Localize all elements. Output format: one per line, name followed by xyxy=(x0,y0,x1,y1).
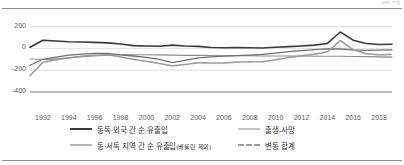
legend-label: 변동 합계 xyxy=(265,140,295,151)
x-tick-label: 2004 xyxy=(190,114,206,121)
plot-area: 2000-200-400 199219941996199820002002200… xyxy=(0,10,404,102)
legend-swatch-icon xyxy=(70,141,92,149)
legend-item-0[interactable]: 동독·외국 간 순 유출입 xyxy=(34,124,220,135)
chart-figure: (단위: 천 명) 2000-200-400 19921994199619982… xyxy=(0,0,404,165)
x-tick-label: 1996 xyxy=(87,114,103,121)
x-tick-label: 2012 xyxy=(294,114,310,121)
y-tick-label: -200 xyxy=(0,65,26,72)
legend-label: 출생-사망 xyxy=(265,124,295,135)
x-tick-label: 2014 xyxy=(320,114,336,121)
line-chart-svg xyxy=(0,10,404,102)
chart-legend: 동독·외국 간 순 유출입출생-사망동·서독 지역 간 순 유출입(베를린 제외… xyxy=(0,121,404,153)
legend-item-1[interactable]: 출생-사망 xyxy=(220,124,370,135)
y-tick-label: 200 xyxy=(0,22,26,29)
bottom-divider xyxy=(2,160,402,161)
legend-swatch-icon xyxy=(238,141,260,149)
x-tick-label: 2000 xyxy=(139,114,155,121)
x-tick-label: 2018 xyxy=(371,114,387,121)
top-divider xyxy=(2,8,402,9)
x-tick-label: 1992 xyxy=(35,114,51,121)
unit-note: (단위: 천 명) xyxy=(382,0,400,5)
legend-row: 동독·외국 간 순 유출입출생-사망 xyxy=(0,121,404,137)
legend-row: 동·서독 지역 간 순 유출입(베를린 제외)변동 합계 xyxy=(0,137,404,153)
legend-label: 동독·외국 간 순 유출입 xyxy=(97,124,167,135)
x-tick-label: 2008 xyxy=(242,114,258,121)
legend-swatch-icon xyxy=(70,125,92,133)
x-tick-label: 2016 xyxy=(345,114,361,121)
x-tick-label: 2010 xyxy=(268,114,284,121)
legend-label: 동·서독 지역 간 순 유출입(베를린 제외) xyxy=(97,140,211,151)
y-tick-label: -400 xyxy=(0,87,26,94)
series-line-0 xyxy=(30,32,392,48)
x-tick-label: 1998 xyxy=(113,114,129,121)
y-tick-label: 0 xyxy=(0,43,26,50)
legend-swatch-icon xyxy=(238,125,260,133)
x-tick-label: 2006 xyxy=(216,114,232,121)
x-tick-label: 1994 xyxy=(61,114,77,121)
x-tick-label: 2002 xyxy=(164,114,180,121)
legend-item-2[interactable]: 동·서독 지역 간 순 유출입(베를린 제외) xyxy=(34,140,220,151)
legend-item-3[interactable]: 변동 합계 xyxy=(220,140,370,151)
